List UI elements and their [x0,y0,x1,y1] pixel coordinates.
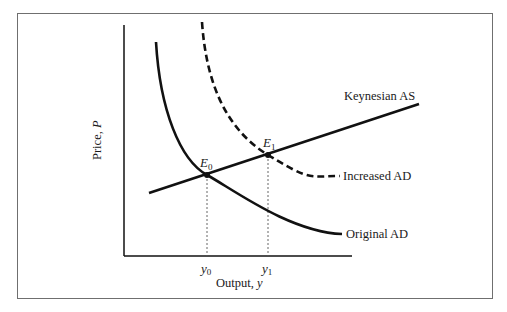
y-axis-title: Price, P [90,120,104,160]
x-tick-y1: y1 [260,261,272,277]
e1-point [265,152,271,158]
keynesian-as-label: Keynesian AS [344,89,415,103]
original-ad-label: Original AD [346,227,408,241]
x-axis-title: Output, y [216,276,263,290]
ad-as-diagram: E0 E1 Keynesian AS Increased AD Original… [0,0,507,312]
e0-label: E0 [199,155,213,172]
e1-label: E1 [262,135,275,152]
e0-point [204,172,210,178]
x-tick-y0: y0 [199,261,212,277]
increased-ad-label: Increased AD [343,169,411,183]
